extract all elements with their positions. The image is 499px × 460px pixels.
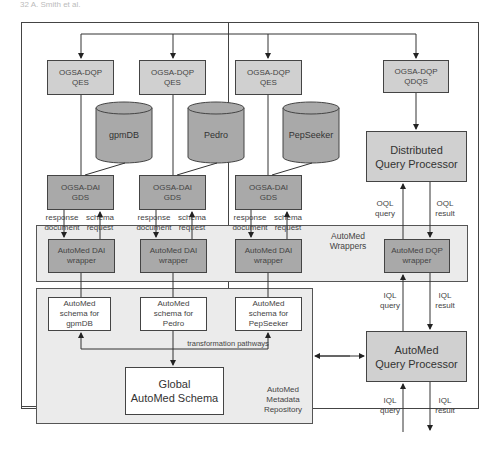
response-document-label: response document xyxy=(42,213,82,233)
ogsa-dai-gds-node[interactable]: OGSA-DAI GDS xyxy=(47,175,114,210)
metadata-repository-label: AutoMed Metadata Repository xyxy=(252,385,314,415)
automed-schema-pedro[interactable]: AutoMed schema for Pedro xyxy=(140,297,207,331)
page-header: 32 A. Smith et al. xyxy=(20,0,80,9)
ogsa-dqp-qes-node[interactable]: OGSA-DQP QES xyxy=(235,60,302,95)
iql-result-label: IQL result xyxy=(430,396,460,416)
ogsa-dqp-qes-node[interactable]: OGSA-DQP QES xyxy=(47,60,114,95)
schema-request-label: schema request xyxy=(174,213,210,233)
ogsa-dai-gds-node[interactable]: OGSA-DAI GDS xyxy=(139,175,206,210)
iql-query-label: IQL query xyxy=(375,291,405,311)
ogsa-dai-gds-node[interactable]: OGSA-DAI GDS xyxy=(235,175,302,210)
oql-query-label: OQL query xyxy=(370,199,400,219)
automed-wrappers-label: AutoMed Wrappers xyxy=(318,231,378,251)
automed-dai-wrapper[interactable]: AutoMed DAI wrapper xyxy=(140,239,207,273)
automed-dai-wrapper[interactable]: AutoMed DAI wrapper xyxy=(235,239,302,273)
response-document-label: response document xyxy=(134,213,174,233)
schema-request-label: schema request xyxy=(270,213,306,233)
automed-dqp-wrapper[interactable]: AutoMed DQP wrapper xyxy=(384,239,450,273)
automed-schema-pepseeker[interactable]: AutoMed schema for PepSeeker xyxy=(235,297,302,331)
database-gpmdb[interactable]: gpmDB xyxy=(96,130,152,140)
oql-result-label: OQL result xyxy=(430,199,460,219)
global-automed-schema[interactable]: Global AutoMed Schema xyxy=(125,367,224,415)
iql-query-label: IQL query xyxy=(375,396,405,416)
automed-dai-wrapper[interactable]: AutoMed DAI wrapper xyxy=(48,239,115,273)
response-document-label: response document xyxy=(230,213,270,233)
transformation-pathways-label: transformation pathways xyxy=(178,339,278,349)
ogsa-dqp-qdqs-node[interactable]: OGSA-DQP QDQS xyxy=(383,60,449,93)
automed-query-processor[interactable]: AutoMed Query Processor xyxy=(366,331,467,382)
distributed-query-processor[interactable]: Distributed Query Processor xyxy=(366,131,467,182)
iql-result-label: IQL result xyxy=(430,291,460,311)
database-pepseeker[interactable]: PepSeeker xyxy=(283,130,339,140)
database-pedro[interactable]: Pedro xyxy=(188,130,244,140)
automed-schema-gpmdb[interactable]: AutoMed schema for gpmDB xyxy=(48,297,111,331)
ogsa-dqp-qes-node[interactable]: OGSA-DQP QES xyxy=(139,60,206,95)
schema-request-label: schema request xyxy=(82,213,118,233)
